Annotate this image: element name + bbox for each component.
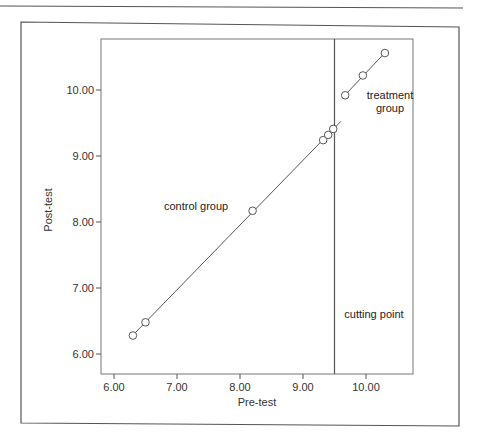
x-tick-label: 7.00	[166, 381, 187, 393]
y-tick-label: 7.00	[73, 282, 94, 294]
series-layer	[129, 49, 389, 339]
x-tick-label: 10.00	[352, 381, 380, 393]
y-tick-label: 9.00	[73, 150, 94, 162]
y-tick-label: 8.00	[73, 216, 94, 228]
x-tick-label: 8.00	[229, 381, 250, 393]
control-group-point	[329, 125, 337, 133]
treatment-group-label-line2: group	[376, 102, 404, 114]
control-group-fit-line	[133, 121, 341, 335]
control-group-point	[129, 332, 137, 340]
y-axis: 6.007.008.009.0010.00	[66, 84, 101, 360]
control-group-point	[142, 319, 150, 327]
x-tick-label: 6.00	[103, 381, 124, 393]
x-tick-label: 9.00	[292, 381, 313, 393]
page-top-rule	[0, 6, 463, 8]
y-axis-label: Post-test	[42, 188, 54, 231]
treatment-group-point	[381, 49, 389, 57]
control-group-point	[249, 207, 257, 215]
y-tick-label: 6.00	[73, 348, 94, 360]
treatment-group-point	[359, 72, 367, 80]
treatment-group-label-line1: treatment	[367, 89, 413, 101]
control-group-label: control group	[164, 200, 228, 212]
treatment-group-point	[341, 91, 349, 99]
x-axis: 6.007.008.009.0010.00	[103, 374, 379, 393]
cutting-point-label: cutting point	[344, 308, 403, 320]
regression-discontinuity-chart: 6.007.008.009.0010.00 6.007.008.009.0010…	[0, 0, 478, 448]
y-tick-label: 10.00	[66, 84, 94, 96]
x-axis-label: Pre-test	[238, 396, 277, 408]
